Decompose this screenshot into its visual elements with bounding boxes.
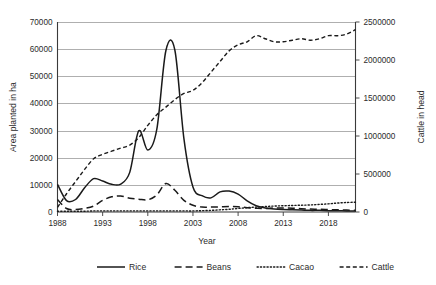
gridlines-group — [58, 23, 356, 186]
series-line-beans — [58, 183, 356, 210]
y-axis-ticks: 010000200003000040000500006000070000 — [30, 18, 53, 217]
y2-tick-label: 1500000 — [364, 94, 396, 103]
y2-tick-label: 2000000 — [364, 56, 396, 65]
legend-label-cattle: Cattle — [372, 262, 395, 272]
chart-legend: RiceBeansCacaoCattle — [97, 262, 394, 272]
legend-label-rice: Rice — [129, 262, 146, 272]
y2-axis-title: Cattle in head — [416, 90, 426, 143]
y-tick-label: 70000 — [30, 18, 53, 27]
x-axis-ticks: 1988199319982003200820132018 — [48, 212, 338, 228]
x-tick-label: 2013 — [274, 219, 293, 228]
plot-frame — [58, 22, 356, 212]
y-axis-title: Area planted in ha — [8, 82, 18, 152]
y-tick-label: 0 — [48, 208, 53, 217]
y2-tick-label: 2500000 — [364, 18, 396, 27]
legend-label-beans: Beans — [207, 262, 231, 272]
x-tick-label: 2018 — [319, 219, 338, 228]
chart-container: 010000200003000040000500006000070000 050… — [0, 0, 436, 285]
y-tick-label: 50000 — [30, 72, 53, 81]
y2-axis-ticks: 05000001000000150000020000002500000 — [356, 18, 396, 217]
y2-tick-label: 1000000 — [364, 132, 396, 141]
y-tick-label: 10000 — [30, 181, 53, 190]
x-axis-title: Year — [198, 236, 216, 246]
x-tick-label: 1998 — [139, 219, 158, 228]
y2-tick-label: 0 — [364, 208, 369, 217]
y2-tick-label: 500000 — [364, 170, 392, 179]
x-tick-label: 1993 — [94, 219, 113, 228]
y-tick-label: 30000 — [30, 127, 53, 136]
y-tick-label: 40000 — [30, 99, 53, 108]
x-tick-label: 2008 — [229, 219, 248, 228]
legend-label-cacao: Cacao — [289, 262, 314, 272]
series-group — [58, 30, 356, 212]
x-tick-label: 2003 — [184, 219, 203, 228]
y-tick-label: 60000 — [30, 45, 53, 54]
line-chart: 010000200003000040000500006000070000 050… — [0, 0, 436, 285]
y-tick-label: 20000 — [30, 154, 53, 163]
x-tick-label: 1988 — [48, 219, 67, 228]
